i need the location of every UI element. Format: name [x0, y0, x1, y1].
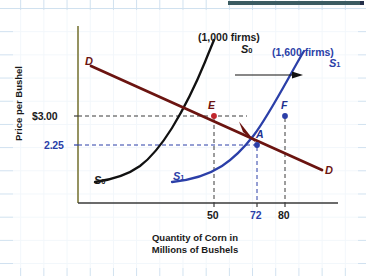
- curve-label-d-right: D: [325, 165, 333, 176]
- y-tick-label-300: $3.00: [32, 111, 57, 122]
- annotation-1000-firms: (1,000 firms): [198, 32, 260, 43]
- curve-label-s1-bottom: S1: [173, 171, 185, 182]
- curve-label-s1-top: S1: [329, 58, 341, 69]
- point-label-f: F: [281, 100, 287, 111]
- point-a-dot: [254, 142, 260, 148]
- x-axis-title-line2: Millions of Bushels: [152, 244, 239, 255]
- supply-shift-arrow-head: [292, 72, 303, 79]
- point-label-e: E: [208, 100, 215, 111]
- x-axis-title: Quantity of Corn in Millions of Bushels: [120, 232, 270, 256]
- x-axis-title-line1: Quantity of Corn in: [152, 232, 238, 243]
- x-tick-label-50: 50: [207, 210, 218, 221]
- point-f-dot: [282, 113, 288, 119]
- y-tick-label-225: 2.25: [44, 140, 64, 151]
- point-e-dot: [211, 113, 217, 119]
- y-axis-title: Price per Bushel: [13, 62, 24, 146]
- annotation-1600-firms: (1,600 firms): [272, 47, 334, 58]
- curve-label-s0-bottom: S0: [94, 175, 106, 186]
- chart-figure: Price per Bushel $3.00 2.25 50 72 80 Qua…: [0, 0, 366, 276]
- curve-label-d-left: D: [85, 56, 93, 67]
- curve-supply-s0: [95, 40, 214, 182]
- x-tick-label-72: 72: [250, 210, 261, 221]
- point-label-a: A: [256, 129, 264, 140]
- curve-label-s0-top: S0: [241, 44, 253, 55]
- x-tick-label-80: 80: [278, 210, 289, 221]
